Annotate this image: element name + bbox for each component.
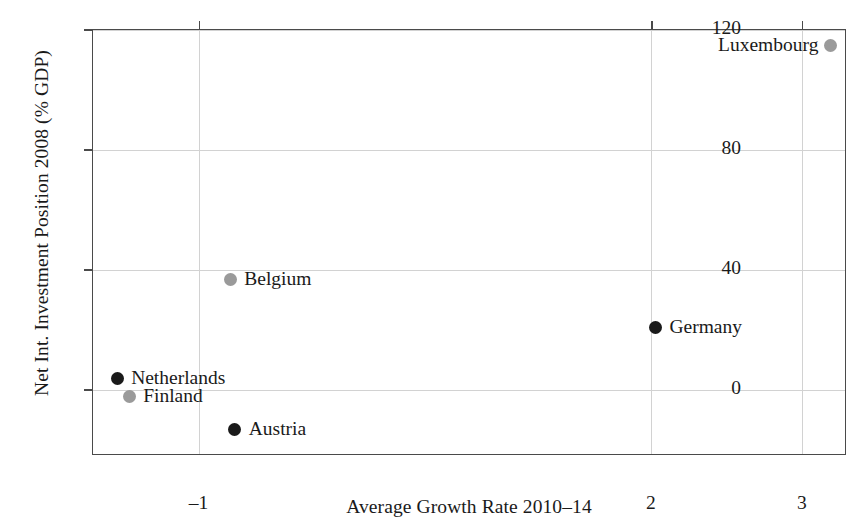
y-tick-mark — [84, 29, 93, 31]
data-point-marker[interactable] — [824, 39, 837, 52]
data-point-marker[interactable] — [111, 372, 124, 385]
scatter-chart-figure: Net Int. Investment Position 2008 (% GDP… — [0, 0, 868, 532]
x-tick-label: 3 — [772, 492, 832, 514]
data-point-label: Finland — [143, 386, 203, 406]
x-tick-mark — [802, 21, 804, 30]
y-tick-mark — [84, 149, 93, 151]
data-point-marker[interactable] — [649, 321, 662, 334]
data-point-marker[interactable] — [123, 390, 136, 403]
x-tick-mark — [199, 21, 201, 30]
y-tick-label: 40 — [681, 257, 741, 279]
plot-area: 04080120 –123 LuxembourgBelgiumGermanyNe… — [92, 29, 846, 455]
data-point-label: Luxembourg — [718, 35, 818, 55]
y-axis-title: Net Int. Investment Position 2008 (% GDP… — [31, 13, 53, 433]
y-tick-mark — [84, 389, 93, 391]
x-tick-mark — [651, 21, 653, 30]
data-point-marker[interactable] — [224, 273, 237, 286]
y-tick-mark — [84, 269, 93, 271]
data-point-label: Germany — [669, 317, 742, 337]
y-tick-label: 0 — [681, 377, 741, 399]
data-point-label: Belgium — [244, 269, 311, 289]
data-point-marker[interactable] — [228, 423, 241, 436]
x-tick-label: 2 — [621, 492, 681, 514]
y-tick-label: 80 — [681, 137, 741, 159]
data-point-label: Austria — [249, 419, 306, 439]
x-tick-label: –1 — [169, 492, 229, 514]
